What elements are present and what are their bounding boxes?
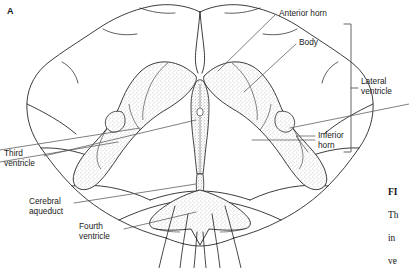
- leader-anterior-horn: [218, 14, 276, 71]
- label-third-ventricle: Third ventricle: [4, 149, 35, 168]
- label-fourth-ventricle: Fourth ventricle: [79, 222, 110, 241]
- label-body: Body: [299, 38, 318, 48]
- caption-line-1: FI: [388, 187, 409, 198]
- label-cerebral-aqueduct: Cerebral aqueduct: [29, 197, 63, 216]
- panel-letter-a: A: [7, 6, 14, 16]
- caption-line-2: Th: [388, 210, 409, 221]
- left-lateral-ventricle: [73, 62, 196, 190]
- fourth-ventricle-cast: [150, 190, 251, 245]
- lateral-ventricle-bracket-shape: [344, 24, 358, 152]
- figure-page: A Anterior horn Body Inferior horn Third…: [0, 0, 409, 268]
- brain-ventricle-illustration: [0, 0, 409, 268]
- caption-line-4: ve: [388, 256, 409, 267]
- figure-caption: FI Th in ve th: [388, 176, 409, 268]
- leader-sightline-c: [290, 104, 409, 128]
- label-lateral-ventricle: Lateral ventricle: [361, 77, 392, 96]
- label-inferior-horn: Inferior horn: [318, 131, 344, 150]
- caption-line-3: in: [388, 233, 409, 244]
- ventricular-cast: [73, 62, 327, 245]
- right-lateral-ventricle: [204, 62, 327, 190]
- label-anterior-horn: Anterior horn: [279, 9, 327, 19]
